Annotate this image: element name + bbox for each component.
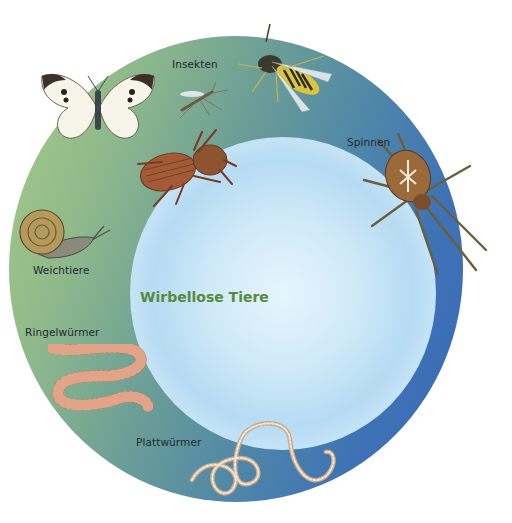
- snail-icon: [18, 204, 114, 262]
- spider-icon: [358, 130, 488, 275]
- label-plattwuermer: Plattwürmer: [136, 436, 201, 448]
- label-spinnen: Spinnen: [347, 136, 390, 148]
- label-ringelwuermer: Ringelwürmer: [25, 326, 100, 338]
- diagram-title: Wirbellose Tiere: [140, 289, 269, 305]
- label-weichtiere: Weichtiere: [33, 264, 90, 276]
- mosquito-icon: [172, 80, 232, 120]
- wasp-icon: [232, 22, 337, 117]
- earthworm-icon: [48, 344, 153, 414]
- flatworm-icon: [188, 410, 338, 500]
- beetle-icon: [132, 122, 242, 207]
- invertebrates-diagram: Insekten Spinnen Weichtiere Ringelwürmer…: [0, 0, 512, 523]
- label-insekten: Insekten: [172, 58, 218, 70]
